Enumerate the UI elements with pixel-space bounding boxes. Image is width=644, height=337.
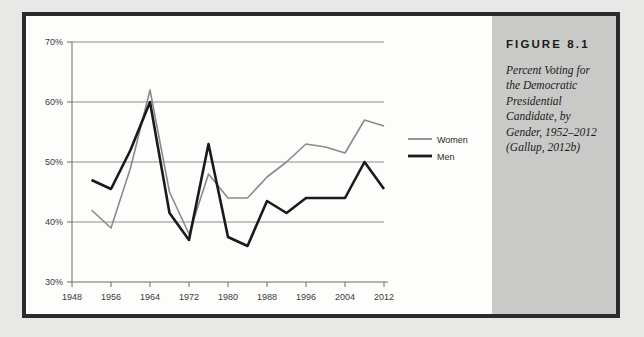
legend-label-women: Women — [437, 135, 468, 145]
series-line-men — [92, 102, 385, 246]
figure-caption-panel: FIGURE 8.1 Percent Voting for the Democr… — [492, 16, 616, 314]
y-tick-label: 30% — [45, 277, 63, 287]
figure-caption-text: Percent Voting for the Democratic Presid… — [506, 63, 604, 155]
x-tick-label: 1948 — [62, 292, 82, 302]
x-tick-label: 1980 — [218, 292, 238, 302]
figure-container: 70% 60% 50% 40% 30% 1948 1956 1964 1972 — [22, 12, 620, 318]
y-tick-label: 50% — [45, 157, 63, 167]
chart-legend: Women Men — [408, 135, 468, 162]
x-tick-label: 2012 — [374, 292, 394, 302]
y-tick-label: 40% — [45, 217, 63, 227]
y-tick-label: 70% — [45, 37, 63, 47]
figure-number-label: FIGURE 8.1 — [506, 38, 604, 50]
line-chart: 70% 60% 50% 40% 30% 1948 1956 1964 1972 — [26, 16, 492, 314]
x-axis-ticks: 1948 1956 1964 1972 1980 1988 1996 2004 … — [62, 282, 394, 302]
legend-label-men: Men — [437, 152, 455, 162]
x-tick-label: 1972 — [179, 292, 199, 302]
x-tick-label: 1988 — [257, 292, 277, 302]
chart-plot-region: 70% 60% 50% 40% 30% 1948 1956 1964 1972 — [26, 16, 492, 314]
y-tick-label: 60% — [45, 97, 63, 107]
gridlines — [72, 42, 384, 222]
data-series-group — [92, 90, 385, 246]
y-axis-ticks: 70% 60% 50% 40% 30% — [45, 37, 72, 287]
x-tick-label: 1956 — [101, 292, 121, 302]
x-tick-label: 1964 — [140, 292, 160, 302]
x-tick-label: 2004 — [335, 292, 355, 302]
x-tick-label: 1996 — [296, 292, 316, 302]
